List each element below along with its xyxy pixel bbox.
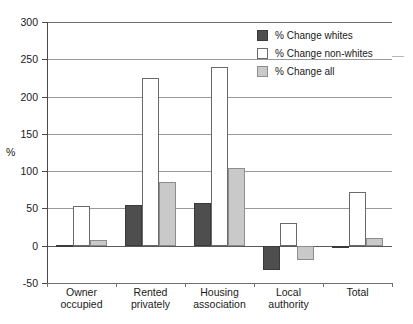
x-axis-label-2: Housingassociation: [185, 287, 254, 310]
legend-swatch-icon-all: [257, 66, 268, 77]
legend-item-non-whites: % Change non-whites: [257, 45, 373, 61]
x-tick-mark-end: [392, 283, 393, 287]
legend-item-whites: % Change whites: [257, 27, 373, 43]
x-axis-label-0: Owneroccupied: [47, 287, 116, 310]
legend-swatch-icon-whites: [257, 30, 268, 41]
legend-swatch-icon-non-whites: [257, 48, 268, 59]
x-axis-label-1: Rentedprivately: [116, 287, 185, 310]
chart-legend: % Change whites % Change non-whites % Ch…: [257, 27, 373, 81]
x-axis-label-line: authority: [254, 299, 323, 311]
x-axis-label-line: Owner: [47, 287, 116, 299]
bar-all-1: [159, 182, 176, 245]
bar-whites-3: [263, 246, 280, 271]
y-tick-label-250: 250: [4, 54, 38, 64]
bar-nonwhites-0: [73, 206, 90, 246]
x-axis-label-line: Housing: [185, 287, 254, 299]
bar-whites-4: [332, 246, 349, 248]
x-axis-label-line: association: [185, 299, 254, 311]
x-axis-label-line: Local: [254, 287, 323, 299]
bar-nonwhites-3: [280, 223, 297, 245]
bar-all-0: [90, 240, 107, 246]
bar-whites-2: [194, 203, 211, 246]
legend-label-non-whites: % Change non-whites: [275, 48, 373, 59]
x-axis-label-4: Total: [323, 287, 392, 299]
x-axis-label-line: Total: [323, 287, 392, 299]
bar-nonwhites-1: [142, 78, 159, 246]
bar-chart: 300250200150100500-50 % OwneroccupiedRen…: [0, 0, 413, 324]
bar-whites-1: [125, 205, 142, 245]
y-tick-label-50: 50: [4, 203, 38, 213]
legend-label-all: % Change all: [275, 66, 334, 77]
legend-item-all: % Change all: [257, 63, 373, 79]
x-axis-label-line: Rented: [116, 287, 185, 299]
bar-all-2: [228, 168, 245, 246]
y-tick-label-0: 0: [4, 241, 38, 251]
y-tick-label-100: 100: [4, 166, 38, 176]
x-axis-label-line: occupied: [47, 299, 116, 311]
y-tick-label-200: 200: [4, 92, 38, 102]
bar-nonwhites-4: [349, 192, 366, 246]
bar-all-3: [297, 246, 314, 260]
x-axis-label-3: Localauthority: [254, 287, 323, 310]
y-tick-label-300: 300: [4, 17, 38, 27]
y-axis-title: %: [6, 146, 15, 158]
bar-nonwhites-2: [211, 67, 228, 245]
legend-label-whites: % Change whites: [275, 30, 353, 41]
bar-whites-0: [56, 245, 73, 247]
x-axis-line: [47, 283, 392, 284]
x-axis-label-line: privately: [116, 299, 185, 311]
y-tick-label-150: 150: [4, 129, 38, 139]
y-tick-label--50: -50: [4, 278, 38, 288]
scan-artifact-dash: [392, 56, 404, 57]
bar-all-4: [366, 238, 383, 245]
